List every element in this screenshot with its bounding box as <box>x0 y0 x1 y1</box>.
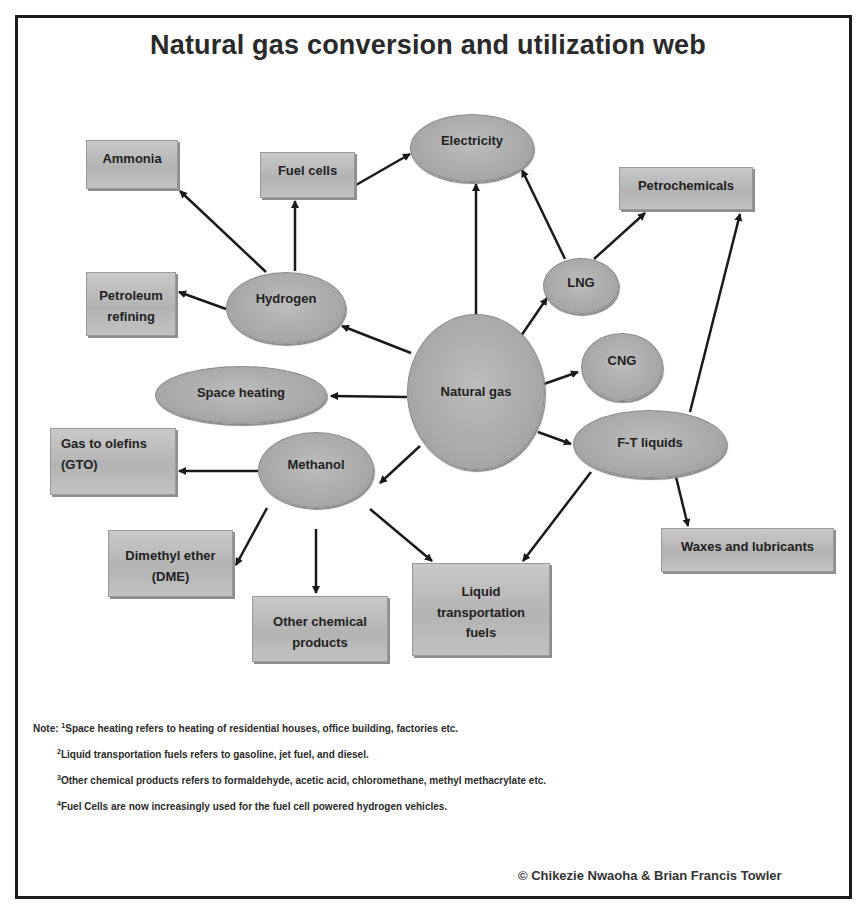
edge-fuelcells-electricity <box>356 154 410 185</box>
node-label: Ammonia <box>102 149 161 170</box>
node-lng: LNG <box>543 258 619 314</box>
node-electricity: Electricity <box>410 114 534 182</box>
note-text: Fuel Cells are now increasingly used for… <box>61 801 447 812</box>
edge-methanol-liquidfuels <box>370 509 432 561</box>
node-label-line1: Dimethyl ether <box>125 546 215 567</box>
node-label: Methanol <box>287 455 344 476</box>
note-2: 2Liquid transportation fuels refers to g… <box>57 748 369 760</box>
node-label-line2: transportation <box>437 603 525 624</box>
node-label-line2: products <box>292 633 348 654</box>
note-1: Note: 1Space heating refers to heating o… <box>33 722 458 734</box>
edge-hydrogen-petroleumrefining <box>179 292 226 309</box>
node-space-heating: Space heating <box>155 366 327 424</box>
note-text: Other chemical products refers to formal… <box>61 775 546 786</box>
edge-naturalgas-cng <box>544 372 578 384</box>
edge-hydrogen-ammonia <box>180 191 266 272</box>
node-label-line2: refining <box>107 307 155 328</box>
node-label: Petrochemicals <box>638 176 734 197</box>
node-ammonia: Ammonia <box>86 140 178 189</box>
node-label-line1: Other chemical <box>273 612 367 633</box>
note-4: 4Fuel Cells are now increasingly used fo… <box>57 800 447 812</box>
edge-ftliquids-waxes <box>676 477 688 526</box>
note-text: Liquid transportation fuels refers to ga… <box>61 749 369 760</box>
node-label: Space heating <box>197 383 285 404</box>
node-label-line2: (GTO) <box>61 455 98 476</box>
node-methanol: Methanol <box>258 432 374 508</box>
node-label-line3: fuels <box>466 623 496 644</box>
node-dimethyl-ether: Dimethyl ether (DME) <box>108 530 233 597</box>
node-gas-to-olefins: Gas to olefins (GTO) <box>50 428 176 495</box>
node-natural-gas: Natural gas <box>407 314 545 470</box>
edge-naturalgas-methanol <box>380 446 420 483</box>
node-liquid-transportation-fuels: Liquid transportation fuels <box>412 563 550 656</box>
node-label: Waxes and lubricants <box>681 537 814 558</box>
node-petroleum-refining: Petroleum refining <box>86 272 176 336</box>
node-label: Fuel cells <box>278 161 337 182</box>
node-other-chemical-products: Other chemical products <box>252 596 388 662</box>
node-hydrogen: Hydrogen <box>226 272 346 344</box>
edge-naturalgas-hydrogen <box>342 326 411 353</box>
edge-methanol-dme <box>236 508 267 565</box>
edge-naturalgas-ftliquids <box>538 432 571 444</box>
node-label-line1: Petroleum <box>99 286 163 307</box>
note-text: Space heating refers to heating of resid… <box>65 723 458 734</box>
edge-ftliquids-liquidfuels <box>523 472 591 561</box>
node-label: F-T liquids <box>617 433 683 454</box>
node-label: Natural gas <box>441 382 512 403</box>
edge-lng-petrochemicals <box>594 213 645 259</box>
node-cng: CNG <box>581 333 663 401</box>
node-label: Hydrogen <box>256 289 317 310</box>
node-label-line1: Liquid <box>462 582 501 603</box>
node-petrochemicals: Petrochemicals <box>619 167 753 210</box>
edge-naturalgas-spaceheating <box>331 396 407 397</box>
node-waxes-lubricants: Waxes and lubricants <box>661 528 834 572</box>
node-label: LNG <box>567 273 594 294</box>
copyright: © Chikezie Nwaoha & Brian Francis Towler <box>518 868 782 883</box>
edge-lng-electricity <box>522 170 565 259</box>
note-prefix: Note: <box>33 723 61 734</box>
note-3: 3Other chemical products refers to forma… <box>57 774 546 786</box>
node-ft-liquids: F-T liquids <box>573 410 727 478</box>
node-label-line2: (DME) <box>152 567 190 588</box>
node-label: CNG <box>608 351 637 372</box>
node-label-line1: Gas to olefins <box>61 434 147 455</box>
node-fuel-cells: Fuel cells <box>260 152 355 198</box>
node-label: Electricity <box>441 131 503 152</box>
edge-ftliquids-petrochemicals <box>690 214 740 412</box>
edge-naturalgas-lng <box>521 298 547 336</box>
